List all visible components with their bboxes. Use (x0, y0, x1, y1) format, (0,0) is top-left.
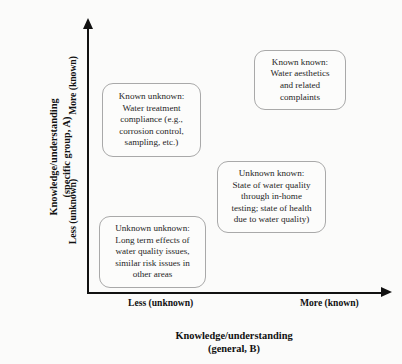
x-axis-line (87, 292, 383, 294)
y-axis-arrow-icon (83, 18, 93, 29)
quadrant-diagram: Known unknown: Water treatment complianc… (0, 0, 402, 364)
quadrant-box-known-unknown: Known unknown: Water treatment complianc… (102, 83, 201, 157)
y-axis-line (87, 28, 89, 294)
quadrant-box-known-known: Known known: Water aesthetics and relate… (254, 50, 346, 110)
quadrant-box-unknown-unknown: Unknown unknown: Long term effects of wa… (99, 216, 206, 288)
x-axis-arrow-icon (381, 287, 392, 297)
x-axis-tick-high: More (known) (300, 297, 359, 308)
x-axis-tick-low: Less (unknown) (128, 297, 193, 308)
x-axis-title: Knowledge/understanding (general, B) (86, 329, 382, 355)
quadrant-box-unknown-known: Unknown known: State of water quality th… (217, 161, 326, 233)
y-axis-title: Knowledge/understanding (specific group,… (47, 47, 73, 267)
